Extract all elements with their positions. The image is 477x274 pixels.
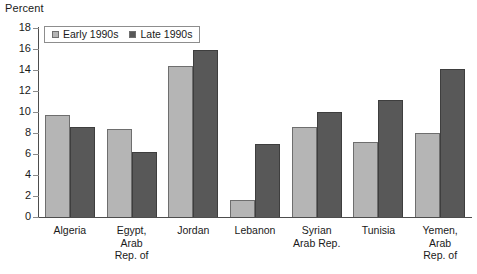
y-axis-tick bbox=[33, 91, 39, 92]
y-axis-tick bbox=[33, 154, 39, 155]
x-axis-category-label-line: Syrian bbox=[286, 224, 348, 237]
y-axis-tick-label: 10 bbox=[1, 106, 31, 117]
y-axis-tick bbox=[33, 112, 39, 113]
y-axis-tick-label: 8 bbox=[1, 127, 31, 138]
bar-group bbox=[348, 28, 410, 217]
x-axis-category-label-line: Arab bbox=[101, 237, 163, 250]
y-axis-tick bbox=[33, 133, 39, 134]
x-axis-category-label-line: Lebanon bbox=[224, 224, 286, 237]
bar-group bbox=[409, 28, 471, 217]
y-axis-tick bbox=[33, 196, 39, 197]
x-axis-category-label-line: Rep. of bbox=[409, 249, 471, 262]
x-axis-category-label-line: Yemen, bbox=[409, 224, 471, 237]
bar-group bbox=[224, 28, 286, 217]
x-axis-labels: AlgeriaEgypt,ArabRep. ofJordanLebanonSyr… bbox=[39, 224, 471, 274]
y-axis-tick-label: 16 bbox=[1, 43, 31, 54]
bar-early-1990s bbox=[292, 127, 317, 217]
bar-late-1990s bbox=[132, 152, 157, 217]
x-axis-category-label-line: Rep. of bbox=[101, 249, 163, 262]
bar-early-1990s bbox=[353, 142, 378, 217]
x-axis-category-label-line: Arab Rep. bbox=[286, 237, 348, 250]
x-axis-category-label: Jordan bbox=[162, 224, 224, 237]
y-axis-tick bbox=[33, 28, 39, 29]
x-axis-category-label-line: Egypt, bbox=[101, 224, 163, 237]
bar-late-1990s bbox=[193, 50, 218, 217]
bar-late-1990s bbox=[255, 144, 280, 218]
y-axis-tick bbox=[33, 175, 39, 176]
legend-label: Early 1990s bbox=[63, 29, 118, 40]
bar-chart: Percent 024681012141618 Early 1990sLate … bbox=[0, 0, 477, 274]
bar-early-1990s bbox=[230, 200, 255, 217]
bar-early-1990s bbox=[45, 115, 70, 217]
y-axis-tick-label: 2 bbox=[1, 190, 31, 201]
bar-early-1990s bbox=[415, 133, 440, 217]
y-axis-tick-label: 14 bbox=[1, 64, 31, 75]
y-axis-labels: 024681012141618 bbox=[0, 0, 31, 274]
x-axis-category-label: Lebanon bbox=[224, 224, 286, 237]
x-axis-category-label-line: Jordan bbox=[162, 224, 224, 237]
y-axis-tick bbox=[33, 70, 39, 71]
legend-label: Late 1990s bbox=[140, 29, 192, 40]
plot-area bbox=[39, 28, 471, 217]
x-axis-category-label-line: Tunisia bbox=[348, 224, 410, 237]
y-axis-tick-label: 6 bbox=[1, 148, 31, 159]
bar-group bbox=[101, 28, 163, 217]
bar-late-1990s bbox=[317, 112, 342, 217]
legend-swatch-icon bbox=[52, 31, 59, 38]
y-axis-tick-label: 12 bbox=[1, 85, 31, 96]
legend-item: Early 1990s bbox=[52, 29, 118, 40]
bar-group bbox=[39, 28, 101, 217]
legend-swatch-icon bbox=[129, 31, 136, 38]
bar-late-1990s bbox=[440, 69, 465, 217]
x-axis-category-label: SyrianArab Rep. bbox=[286, 224, 348, 249]
x-axis-category-label: Egypt,ArabRep. of bbox=[101, 224, 163, 262]
chart-legend: Early 1990sLate 1990s bbox=[44, 26, 200, 43]
x-axis-category-label-line: Arab bbox=[409, 237, 471, 250]
y-axis-tick-label: 4 bbox=[1, 169, 31, 180]
bar-group bbox=[286, 28, 348, 217]
bar-group bbox=[162, 28, 224, 217]
x-axis-category-label: Yemen,ArabRep. of bbox=[409, 224, 471, 262]
x-axis-line bbox=[38, 217, 472, 218]
y-axis-tick bbox=[33, 49, 39, 50]
y-axis-tick-label: 0 bbox=[1, 211, 31, 222]
legend-item: Late 1990s bbox=[129, 29, 192, 40]
bar-late-1990s bbox=[70, 127, 95, 217]
x-axis-category-label: Tunisia bbox=[348, 224, 410, 237]
bar-early-1990s bbox=[107, 129, 132, 217]
y-axis-tick bbox=[33, 217, 39, 218]
y-axis-tick-label: 18 bbox=[1, 22, 31, 33]
bar-late-1990s bbox=[378, 100, 403, 217]
x-axis-category-label-line: Algeria bbox=[39, 224, 101, 237]
bar-early-1990s bbox=[168, 66, 193, 217]
x-axis-category-label: Algeria bbox=[39, 224, 101, 237]
